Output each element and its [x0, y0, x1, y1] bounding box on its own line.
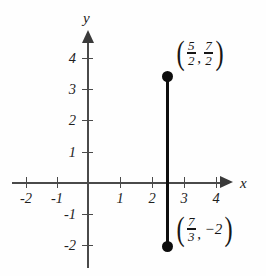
- close-paren: ): [215, 36, 223, 70]
- y-tick-label: 4: [48, 50, 76, 67]
- x-tick-mark: [120, 177, 122, 188]
- x-axis-label: x: [240, 175, 247, 192]
- lower-endpoint-dot: [162, 241, 173, 252]
- lower-x-numerator: 7: [187, 215, 196, 228]
- lower-y-value: −2: [204, 221, 224, 238]
- y-tick-label: 2: [48, 112, 76, 129]
- upper-x-denominator: 2: [187, 54, 196, 67]
- x-tick-mark: [57, 177, 59, 188]
- y-axis-label: y: [83, 10, 90, 27]
- x-tick-mark: [152, 177, 154, 188]
- lower-x-fraction: 7 3: [187, 215, 196, 244]
- comma-separator: ,: [196, 226, 203, 243]
- x-axis-line: [12, 182, 222, 184]
- close-paren: ): [225, 212, 233, 246]
- comma-separator: ,: [196, 50, 203, 67]
- y-axis-arrow-icon: [82, 30, 94, 43]
- lower-x-denominator: 3: [187, 230, 196, 243]
- x-tick-label: -2: [11, 190, 41, 207]
- x-tick-mark: [184, 177, 186, 188]
- x-tick-label: 2: [137, 190, 167, 207]
- x-tick-label: 3: [169, 190, 199, 207]
- y-tick-label: -1: [48, 206, 76, 223]
- upper-endpoint-dot: [162, 71, 173, 82]
- x-tick-label: 4: [201, 190, 231, 207]
- upper-y-denominator: 2: [204, 54, 213, 67]
- y-tick-mark: [82, 58, 93, 60]
- line-segment: [166, 76, 169, 246]
- y-tick-label: 3: [48, 81, 76, 98]
- upper-x-fraction: 5 2: [187, 39, 196, 68]
- y-tick-label: -2: [48, 237, 76, 254]
- y-tick-mark: [82, 120, 93, 122]
- x-tick-mark: [216, 177, 218, 188]
- lower-endpoint-annotation: ( 7 3 , −2 ): [175, 212, 235, 246]
- x-tick-label: 1: [105, 190, 135, 207]
- y-tick-mark: [82, 214, 93, 216]
- x-tick-mark: [26, 177, 28, 188]
- coordinate-plane-figure: x y -2 -1 1 2 3 4 4 3 2 1 -1 -2 ( 5 2 , …: [0, 0, 266, 276]
- x-axis-arrow-icon: [220, 176, 233, 188]
- y-tick-mark: [82, 89, 93, 91]
- upper-endpoint-annotation: ( 5 2 , 7 2 ): [175, 36, 225, 70]
- open-paren: (: [177, 212, 185, 246]
- y-tick-mark: [82, 152, 93, 154]
- open-paren: (: [177, 36, 185, 70]
- y-tick-label: 1: [48, 144, 76, 161]
- upper-y-fraction: 7 2: [204, 39, 213, 68]
- upper-y-numerator: 7: [204, 39, 213, 52]
- upper-x-numerator: 5: [187, 39, 196, 52]
- y-tick-mark: [82, 245, 93, 247]
- x-tick-label: -1: [42, 190, 72, 207]
